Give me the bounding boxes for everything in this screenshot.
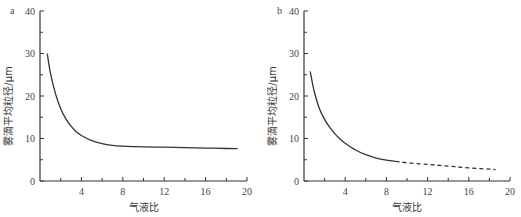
chart-panel-a: 01020304048121620气液比雾滴平均粒径/μma: [2, 5, 252, 213]
panel-label: a: [10, 5, 15, 16]
figure: 01020304048121620气液比雾滴平均粒径/μma0102030404…: [0, 0, 521, 217]
x-tick-label: 20: [505, 186, 515, 197]
x-tick-label: 4: [343, 186, 348, 197]
y-tick-label: 30: [289, 48, 299, 59]
x-tick-label: 20: [242, 186, 252, 197]
y-tick-label: 10: [25, 133, 35, 144]
panel-label: b: [277, 5, 282, 16]
y-axis-label: 雾滴平均粒径/μm: [266, 66, 278, 145]
x-tick-label: 4: [79, 186, 84, 197]
y-tick-label: 20: [289, 91, 299, 102]
x-tick-label: 16: [201, 186, 211, 197]
y-tick-label: 0: [294, 176, 299, 187]
y-axis-label: 雾滴平均粒径/μm: [2, 66, 14, 145]
series-line-extrapolated: [396, 161, 496, 169]
y-tick-label: 30: [25, 48, 35, 59]
chart-panel-b: 01020304048121620气液比雾滴平均粒径/μmb: [266, 5, 515, 213]
x-tick-label: 12: [423, 186, 433, 197]
series-line-measured: [310, 71, 395, 161]
y-tick-label: 0: [30, 176, 35, 187]
x-axis-label: 气液比: [392, 201, 422, 213]
x-axis-label: 气液比: [129, 201, 159, 213]
y-tick-label: 40: [25, 6, 35, 17]
x-tick-label: 8: [384, 186, 389, 197]
x-tick-label: 8: [120, 186, 125, 197]
series-line-solid: [47, 54, 237, 149]
y-tick-label: 20: [25, 91, 35, 102]
x-tick-label: 12: [159, 186, 169, 197]
y-tick-label: 10: [289, 133, 299, 144]
y-tick-label: 40: [289, 6, 299, 17]
x-tick-label: 16: [464, 186, 474, 197]
